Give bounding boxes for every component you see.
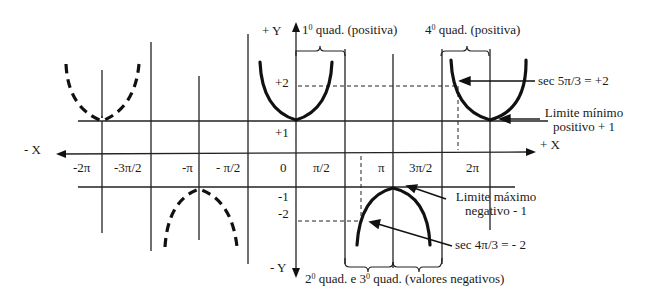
x-tick: 2π — [466, 161, 479, 175]
secant-diagram: + Y - Y + X - X -2π -3π/2 -π - π/2 0 π/2… — [0, 0, 653, 303]
q4-label: 40 quad. (positiva) — [425, 23, 520, 37]
sec-4pi-3-label: sec 4π/3 = - 2 — [455, 238, 526, 252]
y-tick: +1 — [275, 126, 289, 140]
neg-y-label: - Y — [270, 261, 287, 275]
y-tick: -1 — [278, 190, 289, 204]
x-tick: - π/2 — [216, 161, 240, 175]
x-tick: 3π/2 — [409, 161, 432, 175]
q1-label: 10 quad. (positiva) — [302, 23, 397, 37]
x-tick: π — [378, 161, 385, 175]
y-tick: -2 — [278, 207, 289, 221]
neg-x-label: - X — [24, 143, 41, 157]
pos-x-label: + X — [540, 138, 560, 152]
pos-y-label: + Y — [262, 24, 282, 38]
x-tick: -3π/2 — [114, 161, 142, 175]
sec-5pi-3-label: sec 5π/3 = +2 — [538, 74, 609, 88]
q2-q3-label: 20 quad. e 30 quad. (valores negativos) — [305, 272, 504, 286]
x-tick: π/2 — [313, 161, 330, 175]
x-tick: 0 — [280, 161, 287, 175]
x-tick: -π — [182, 161, 193, 175]
y-tick: +2 — [275, 76, 289, 90]
x-tick: -2π — [73, 161, 90, 175]
limite-minimo-label: Limite mínimopositivo + 1 — [542, 106, 626, 134]
limite-maximo-label: Limite máximonegativo - 1 — [450, 190, 542, 218]
